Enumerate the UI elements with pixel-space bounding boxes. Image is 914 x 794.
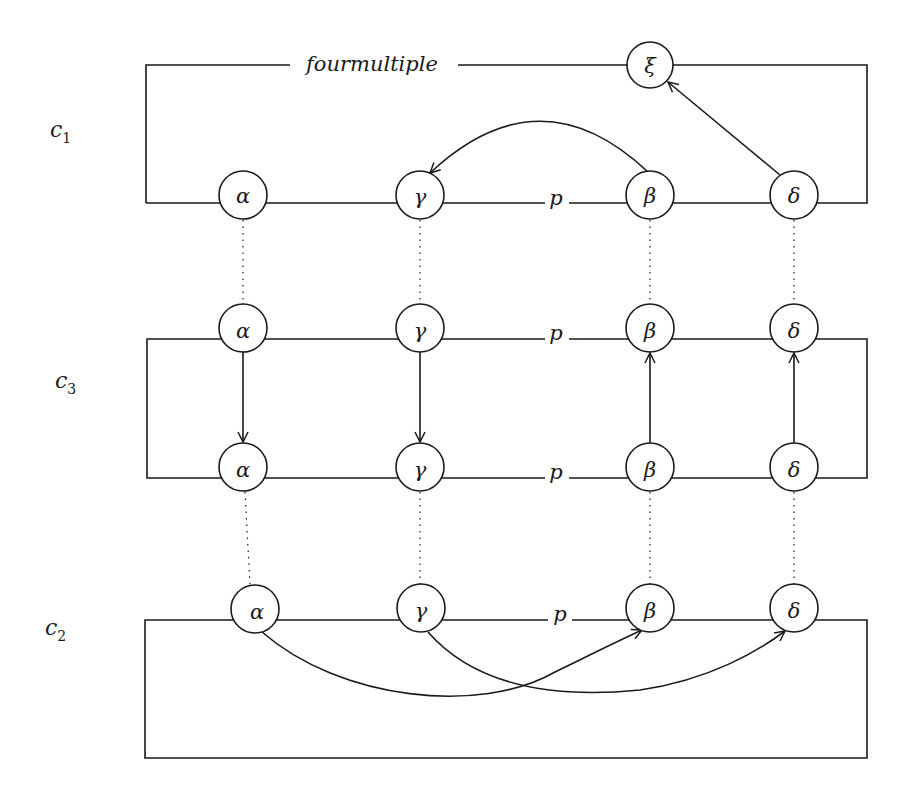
svg-text:α: α: [236, 458, 250, 482]
lattice-diagram: c1 c3 c2 fourmultiple p ξ α γ β: [0, 0, 914, 794]
arc-beta-to-gamma-c1: [430, 121, 648, 173]
dotted-alpha-c3-c2: [245, 492, 250, 585]
svg-text:δ: δ: [788, 184, 801, 208]
node-delta-c3-top: δ: [770, 304, 818, 352]
node-delta-c2: δ: [770, 584, 818, 632]
edge-delta-to-xi-c1: [668, 82, 780, 175]
node-alpha-c1: α: [219, 171, 267, 219]
node-alpha-c3-top: α: [219, 304, 267, 352]
c2-frame: [145, 620, 867, 758]
svg-text:γ: γ: [414, 319, 427, 343]
svg-text:β: β: [643, 599, 656, 623]
svg-text:β: β: [643, 319, 656, 343]
node-alpha-c2: α: [231, 585, 279, 633]
curve-gamma-to-delta-c2: [428, 631, 785, 693]
node-gamma-c3-top: γ: [396, 304, 444, 352]
node-beta-c3-top: β: [626, 304, 674, 352]
p-label-c2: p: [553, 602, 566, 626]
node-gamma-c3-bottom: γ: [396, 443, 444, 491]
svg-text:δ: δ: [788, 458, 801, 482]
svg-text:γ: γ: [414, 185, 427, 209]
p-label-c3-bottom: p: [549, 460, 562, 484]
node-delta-c3-bottom: δ: [770, 443, 818, 491]
svg-text:α: α: [250, 600, 264, 624]
svg-text:δ: δ: [788, 319, 801, 343]
svg-text:δ: δ: [788, 599, 801, 623]
fourmultiple-label: fourmultiple: [304, 52, 438, 76]
svg-text:α: α: [236, 319, 250, 343]
p-label-c1: p: [549, 186, 562, 210]
svg-text:β: β: [643, 458, 656, 482]
svg-text:γ: γ: [414, 458, 427, 482]
svg-text:ξ: ξ: [644, 54, 657, 78]
c3-block: p p α γ β δ α γ: [147, 304, 867, 491]
c2-block: p α γ β δ: [145, 584, 867, 758]
row-label-c3: c3: [55, 368, 76, 397]
row-label-c1: c1: [50, 117, 71, 146]
node-delta-c1: δ: [770, 171, 818, 219]
node-gamma-c2: γ: [397, 584, 445, 632]
node-alpha-c3-bottom: α: [219, 443, 267, 491]
node-gamma-c1: γ: [396, 171, 444, 219]
node-beta-c1: β: [626, 171, 674, 219]
c1-block: fourmultiple p ξ α γ β δ: [146, 42, 867, 219]
node-xi-c1: ξ: [627, 42, 673, 88]
node-beta-c3-bottom: β: [626, 443, 674, 491]
svg-text:α: α: [236, 184, 250, 208]
curve-alpha-to-beta-c2: [262, 630, 642, 696]
node-beta-c2: β: [626, 584, 674, 632]
svg-text:β: β: [643, 184, 656, 208]
row-label-c2: c2: [45, 615, 66, 644]
svg-text:γ: γ: [415, 599, 428, 623]
p-label-c3-top: p: [549, 321, 562, 345]
